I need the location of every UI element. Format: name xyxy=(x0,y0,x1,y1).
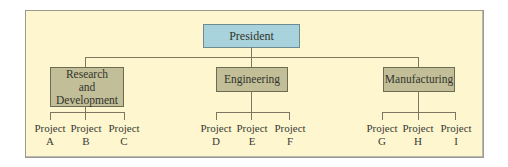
project-c: Project C xyxy=(104,122,144,148)
connector-mfg-project-bus xyxy=(382,112,456,113)
project-word: Project xyxy=(436,122,476,135)
connector-project-c xyxy=(124,112,125,120)
project-word: Project xyxy=(104,122,144,135)
project-word: Project xyxy=(66,122,106,135)
connector-eng-project-bus xyxy=(216,112,290,113)
connector-project-f xyxy=(289,112,290,120)
connector-rd-drop xyxy=(85,57,86,67)
department-label: Engineering xyxy=(224,73,280,86)
connector-rd-project-bus xyxy=(50,112,125,113)
president-box: President xyxy=(203,24,300,48)
project-h: Project H xyxy=(398,122,438,148)
connector-mfg-drop xyxy=(418,57,419,67)
connector-project-b xyxy=(85,112,86,120)
project-letter: E xyxy=(232,135,272,148)
project-letter: H xyxy=(398,135,438,148)
department-box-research-development: Research and Development xyxy=(50,67,124,107)
project-f: Project F xyxy=(270,122,310,148)
project-word: Project xyxy=(30,122,70,135)
project-letter: A xyxy=(30,135,70,148)
project-letter: D xyxy=(196,135,236,148)
connector-project-i xyxy=(455,112,456,120)
project-word: Project xyxy=(232,122,272,135)
department-box-manufacturing: Manufacturing xyxy=(383,67,455,92)
connector-mfg-down xyxy=(418,91,419,113)
project-d: Project D xyxy=(196,122,236,148)
department-label-line: and xyxy=(56,81,118,94)
project-i: Project I xyxy=(436,122,476,148)
department-label: Manufacturing xyxy=(385,73,453,86)
department-label-line: Development xyxy=(56,94,118,107)
project-a: Project A xyxy=(30,122,70,148)
project-g: Project G xyxy=(362,122,402,148)
connector-project-g xyxy=(382,112,383,120)
connector-department-bus xyxy=(85,57,419,58)
project-letter: G xyxy=(362,135,402,148)
connector-project-d xyxy=(216,112,217,120)
connector-project-h xyxy=(418,112,419,120)
president-label: President xyxy=(229,30,274,43)
project-word: Project xyxy=(270,122,310,135)
connector-project-a xyxy=(50,112,51,120)
department-label-line: Research xyxy=(56,68,118,81)
project-b: Project B xyxy=(66,122,106,148)
project-word: Project xyxy=(362,122,402,135)
project-e: Project E xyxy=(232,122,272,148)
project-word: Project xyxy=(196,122,236,135)
connector-eng-down xyxy=(251,91,252,113)
project-letter: F xyxy=(270,135,310,148)
project-letter: I xyxy=(436,135,476,148)
project-word: Project xyxy=(398,122,438,135)
department-box-engineering: Engineering xyxy=(216,67,288,92)
project-letter: C xyxy=(104,135,144,148)
connector-project-e xyxy=(251,112,252,120)
project-letter: B xyxy=(66,135,106,148)
